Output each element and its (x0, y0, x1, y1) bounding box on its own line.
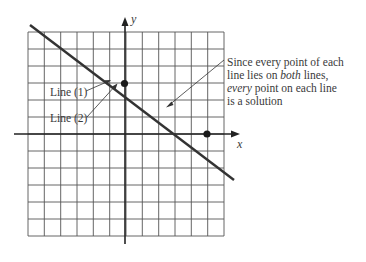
graph-svg (0, 0, 366, 262)
line1-leader (86, 81, 109, 91)
leader-lines (86, 60, 224, 117)
y-axis-arrow-icon (122, 17, 129, 26)
axes (14, 24, 234, 244)
solution-annotation: Since every point of each line lies on b… (227, 56, 344, 108)
annotation-line-1: Since every point of each (227, 56, 344, 69)
x-axis-label: x (237, 138, 242, 151)
y-axis-label: y (131, 13, 136, 26)
point-y-intercept (121, 80, 128, 87)
coordinate-plane-figure: y x Line (1) Line (2) Since every point … (0, 0, 366, 262)
line2-leader (87, 85, 116, 117)
annotation-line-4: is a solution (227, 95, 344, 108)
line2-label: Line (2) (50, 112, 87, 125)
point-x-intercept (203, 130, 210, 137)
annotation-line-3: every point on each line (227, 82, 344, 95)
annotation-line-2: line lies on both lines, (227, 69, 344, 82)
line1-label: Line (1) (50, 86, 87, 99)
